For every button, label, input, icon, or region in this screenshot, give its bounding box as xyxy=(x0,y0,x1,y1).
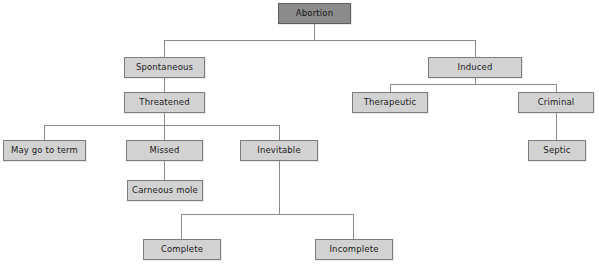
node-threatened[interactable]: Threatened xyxy=(124,92,205,113)
node-inevitable[interactable]: Inevitable xyxy=(240,140,318,161)
node-label-abortion: Abortion xyxy=(296,9,333,17)
node-complete[interactable]: Complete xyxy=(143,239,221,260)
node-carneous-mole[interactable]: Carneous mole xyxy=(127,180,203,201)
node-incomplete[interactable]: Incomplete xyxy=(315,239,393,260)
node-label-therapeutic: Therapeutic xyxy=(364,98,417,107)
node-abortion[interactable]: Abortion xyxy=(278,3,351,24)
node-label-may-go-to-term: May go to term xyxy=(11,146,78,155)
node-label-criminal: Criminal xyxy=(538,98,575,107)
node-criminal[interactable]: Criminal xyxy=(518,92,594,113)
node-induced[interactable]: Induced xyxy=(428,57,522,78)
node-spontaneous[interactable]: Spontaneous xyxy=(124,57,205,78)
node-missed[interactable]: Missed xyxy=(126,140,203,161)
node-label-missed: Missed xyxy=(149,146,179,155)
node-label-threatened: Threatened xyxy=(139,98,189,107)
node-label-septic: Septic xyxy=(543,146,570,155)
node-may-go-to-term[interactable]: May go to term xyxy=(3,140,86,161)
node-label-carneous-mole: Carneous mole xyxy=(132,186,198,195)
node-label-inevitable: Inevitable xyxy=(257,146,301,155)
node-label-spontaneous: Spontaneous xyxy=(136,63,193,72)
node-label-induced: Induced xyxy=(457,63,492,72)
node-label-complete: Complete xyxy=(161,245,203,254)
node-septic[interactable]: Septic xyxy=(528,140,586,161)
node-label-incomplete: Incomplete xyxy=(329,245,378,254)
connector-layer xyxy=(0,0,599,266)
node-therapeutic[interactable]: Therapeutic xyxy=(352,92,428,113)
abortion-classification-diagram: AbortionSpontaneousInducedThreatenedTher… xyxy=(0,0,599,266)
